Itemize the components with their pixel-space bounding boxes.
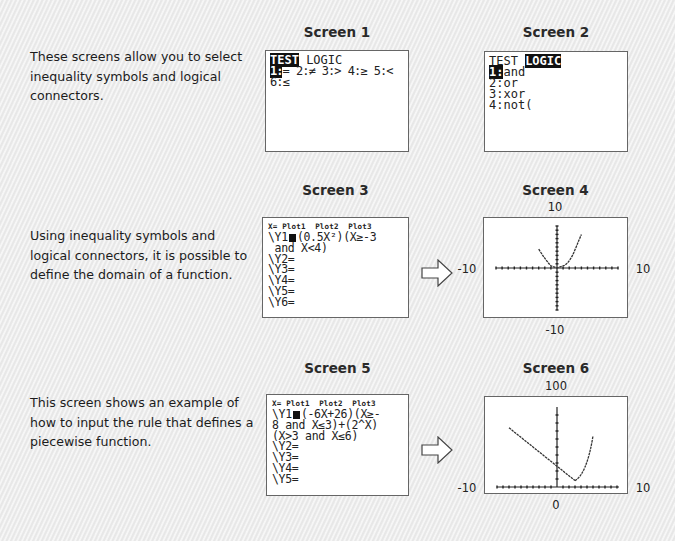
x-min-label: -10: [455, 481, 479, 495]
y-min-label: 0: [546, 498, 566, 512]
y-min-label: -10: [535, 323, 575, 337]
screen-6-graph: [484, 396, 628, 494]
y-max-label: 100: [536, 379, 576, 393]
menu-item[interactable]: 5:<: [374, 66, 393, 77]
menu-item[interactable]: 6:≤: [270, 77, 289, 88]
x-max-label: 10: [633, 262, 653, 276]
right-arrow-icon: [421, 259, 453, 287]
screen-4-title: Screen 4: [483, 182, 628, 198]
menu-item[interactable]: 2:≠: [296, 66, 315, 77]
screen-3-title: Screen 3: [262, 182, 409, 198]
right-arrow-icon: [421, 436, 453, 464]
y5-entry[interactable]: \Y5=: [272, 474, 408, 485]
description-screens-5-6: This screen shows an example of how to i…: [30, 393, 255, 452]
y6-entry[interactable]: \Y6=: [268, 297, 408, 308]
screen-4-graph: [483, 217, 628, 318]
screen-2-logic-menu: TEST LOGIC 1:and 2:or 3:xor 4:not(: [484, 51, 628, 152]
screen-1-title: Screen 1: [265, 24, 409, 40]
x-min-label: -10: [455, 262, 479, 276]
y-max-label: 10: [535, 200, 575, 214]
screen-6-title: Screen 6: [484, 360, 628, 376]
screen-5-y-editor: X= Plot1 Plot2 Plot3 \Y1(-6X+26)(X≥- 8 a…: [266, 394, 409, 496]
x-max-label: 10: [633, 481, 653, 495]
menu-item[interactable]: 3:>: [322, 66, 341, 77]
screen-1-test-menu: TEST LOGIC 1:= 2:≠ 3:> 4:≥ 5:< 6:≤: [265, 50, 409, 152]
menu-item[interactable]: 4:not(: [489, 100, 627, 111]
screen-2-title: Screen 2: [484, 24, 628, 40]
description-screens-1-2: These screens allow you to select inequa…: [30, 47, 250, 106]
description-screens-3-4: Using inequality symbols and logical con…: [30, 226, 250, 285]
graph-plot: [485, 397, 627, 493]
screen-5-title: Screen 5: [266, 360, 409, 376]
tab-logic-active[interactable]: LOGIC: [525, 54, 561, 68]
menu-item[interactable]: 4:≥: [348, 66, 367, 77]
screen-3-y-editor: X= Plot1 Plot2 Plot3 \Y1(0.5X²)(X≥-3 and…: [262, 217, 409, 318]
graph-plot: [484, 218, 627, 317]
